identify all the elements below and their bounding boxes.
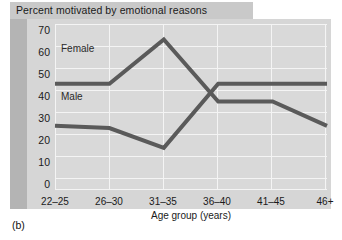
- plot-area: Female Male: [55, 24, 327, 190]
- y-tick-70: 70: [28, 24, 50, 36]
- x-tick-31-35: 31–35: [135, 196, 191, 207]
- figure-caption: (b): [12, 219, 25, 231]
- y-tick-60: 60: [28, 46, 50, 58]
- y-tick-10: 10: [28, 156, 50, 168]
- x-tick-41-45: 41–45: [243, 196, 299, 207]
- y-tick-50: 50: [28, 68, 50, 80]
- chart-title: Percent motivated by emotional reasons: [16, 4, 207, 16]
- series-label-female: Female: [61, 43, 94, 54]
- axis-gutter: [10, 19, 27, 209]
- x-tick-26-30: 26–30: [81, 196, 137, 207]
- y-tick-30: 30: [28, 112, 50, 124]
- x-axis-title: Age group (years): [55, 210, 327, 221]
- chart-title-band: Percent motivated by emotional reasons: [10, 2, 253, 19]
- x-tick-36-40: 36–40: [189, 196, 245, 207]
- figure-panel: Percent motivated by emotional reasons F…: [0, 0, 342, 240]
- x-tick-22-25: 22–25: [27, 196, 83, 207]
- series-label-male: Male: [61, 91, 83, 102]
- y-tick-20: 20: [28, 134, 50, 146]
- x-tick-46plus: 46+: [297, 196, 342, 207]
- series-lines: [55, 24, 327, 190]
- y-tick-0: 0: [28, 178, 50, 190]
- y-tick-40: 40: [28, 90, 50, 102]
- line-male: [55, 84, 327, 148]
